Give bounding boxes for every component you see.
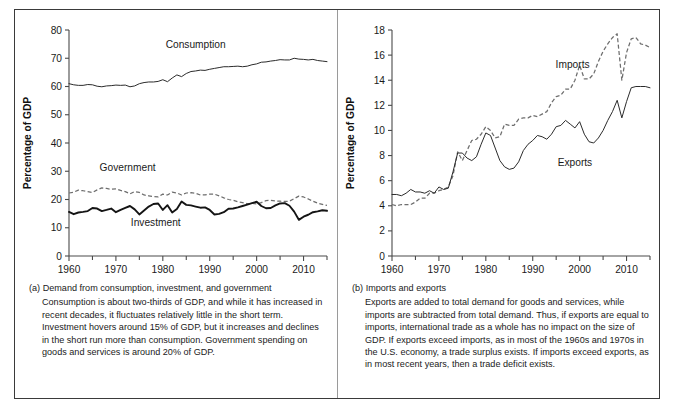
series-line-exports	[392, 87, 650, 196]
y-axis-title: Percentage of GDP	[345, 97, 356, 189]
series-label-exports: Exports	[558, 157, 593, 168]
x-tick-label: 1980	[151, 264, 174, 275]
y-tick-label: 20	[51, 194, 63, 205]
x-tick-label: 1970	[428, 264, 451, 275]
caption-a: (a) Demand from consumption, investment,…	[15, 282, 338, 358]
figure-frame: 0102030405060708019601970198019902000201…	[14, 9, 660, 399]
series-label-government: Government	[100, 162, 156, 173]
chart-a-holder: 0102030405060708019601970198019902000201…	[15, 12, 338, 280]
series-line-investment	[69, 201, 327, 219]
y-tick-label: 80	[51, 25, 63, 36]
series-label-consumption: Consumption	[166, 39, 226, 50]
y-tick-label: 50	[51, 109, 63, 120]
y-tick-label: 4	[379, 200, 385, 211]
x-tick-label: 1990	[521, 264, 544, 275]
x-tick-label: 1990	[198, 264, 221, 275]
y-tick-label: 0	[379, 251, 385, 262]
chart-imports-exports: 024681012141618196019701980199020002010Y…	[338, 12, 661, 280]
x-tick-label: 2010	[292, 264, 315, 275]
y-tick-label: 14	[374, 75, 386, 86]
y-tick-label: 18	[374, 25, 386, 36]
x-axis-title: Year	[510, 279, 532, 280]
y-tick-label: 0	[56, 251, 62, 262]
y-tick-label: 8	[379, 150, 385, 161]
y-tick-label: 40	[51, 138, 63, 149]
caption-a-body: Consumption is about two-thirds of GDP, …	[29, 296, 328, 358]
x-tick-label: 2000	[568, 264, 591, 275]
x-tick-label: 1970	[105, 264, 128, 275]
panel-demand-components: 0102030405060708019601970198019902000201…	[15, 10, 338, 398]
y-tick-label: 10	[374, 125, 386, 136]
caption-a-title: (a) Demand from consumption, investment,…	[29, 282, 328, 294]
y-tick-label: 6	[379, 175, 385, 186]
y-tick-label: 70	[51, 53, 63, 64]
x-axis-title: Year	[187, 279, 209, 280]
panel-imports-exports: 024681012141618196019701980199020002010Y…	[338, 10, 661, 398]
caption-b: (b) Imports and exports Exports are adde…	[338, 282, 661, 371]
chart-b-holder: 024681012141618196019701980199020002010Y…	[338, 12, 661, 280]
x-tick-label: 1960	[58, 264, 81, 275]
y-tick-label: 16	[374, 50, 386, 61]
x-tick-label: 2010	[615, 264, 638, 275]
series-line-government	[69, 188, 327, 206]
x-tick-label: 2000	[245, 264, 268, 275]
y-tick-label: 2	[379, 225, 385, 236]
series-label-investment: Investment	[131, 217, 181, 228]
caption-b-title: (b) Imports and exports	[352, 282, 651, 294]
caption-b-body: Exports are added to total demand for go…	[352, 296, 651, 370]
series-line-consumption	[69, 58, 327, 87]
series-label-imports: Imports	[556, 59, 590, 70]
y-tick-label: 60	[51, 81, 63, 92]
y-tick-label: 12	[374, 100, 386, 111]
x-tick-label: 1960	[381, 264, 404, 275]
x-tick-label: 1980	[474, 264, 497, 275]
y-tick-label: 10	[51, 222, 63, 233]
y-axis-title: Percentage of GDP	[22, 97, 33, 189]
series-line-imports	[392, 34, 650, 206]
chart-consumption-investment-government: 0102030405060708019601970198019902000201…	[15, 12, 338, 280]
y-tick-label: 30	[51, 166, 63, 177]
